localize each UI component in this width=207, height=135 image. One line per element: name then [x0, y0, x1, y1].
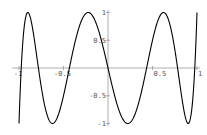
y-tick-label: 1: [102, 9, 106, 17]
y-tick-label: 0.5: [93, 37, 106, 45]
y-axis: 10.5-0.5-1: [89, 9, 110, 128]
x-tick-label: 1: [198, 70, 202, 78]
line-chart: -1-0.50.51 10.5-0.5-1: [0, 0, 207, 135]
x-tick-label: 0.5: [154, 70, 167, 78]
y-tick-label: -0.5: [89, 92, 106, 100]
x-axis: -1-0.50.51: [12, 66, 202, 78]
y-tick-label: -1: [98, 120, 106, 128]
